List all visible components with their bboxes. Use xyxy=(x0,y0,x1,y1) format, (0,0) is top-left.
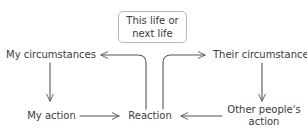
node-my-action: My action xyxy=(25,110,78,122)
karma-flow-diagram: This life or next life My circumstances … xyxy=(0,0,307,137)
node-their-circumstances: Their circumstances xyxy=(213,49,303,61)
node-other-peoples-action: Other people's action xyxy=(226,104,302,128)
node-reaction: Reaction xyxy=(126,110,174,122)
edge-reaction-to-their-circumstances xyxy=(163,55,205,109)
node-other-peoples-action-line2: action xyxy=(249,116,280,127)
node-other-peoples-action-line1: Other people's xyxy=(227,104,300,115)
edge-reaction-to-my-circumstances xyxy=(101,55,146,109)
node-this-life-line2: next life xyxy=(132,28,173,39)
node-this-life-line1: This life or xyxy=(126,15,178,26)
node-this-life-or-next-life: This life or next life xyxy=(118,11,187,43)
node-my-circumstances: My circumstances xyxy=(6,49,92,61)
